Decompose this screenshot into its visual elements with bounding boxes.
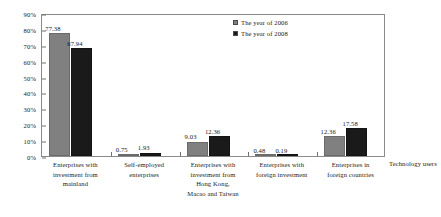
category-label-line: foreign countries <box>309 170 393 180</box>
legend-item-2006: The year of 2006 <box>233 19 288 26</box>
x-tick-mark <box>248 152 249 156</box>
y-tick-label: 50% <box>0 74 40 81</box>
x-axis-category-labels: Enterprises withinvestment frommainlandS… <box>41 160 385 215</box>
y-tick-mark <box>42 158 46 159</box>
bar <box>140 153 161 156</box>
bar <box>49 33 70 156</box>
bar-value-label: 0.19 <box>264 147 298 154</box>
legend-swatch-2008-icon <box>233 31 238 36</box>
bar-cluster: 77.3867.94 <box>42 15 111 156</box>
x-tick-mark <box>317 152 318 156</box>
y-tick-label: 40% <box>0 90 40 97</box>
y-tick-mark <box>42 78 46 79</box>
legend-item-2008: The year of 2008 <box>233 30 288 37</box>
legend-label-2006: The year of 2006 <box>241 19 288 26</box>
bar <box>346 128 367 156</box>
y-tick-mark <box>42 62 46 63</box>
y-tick-label: 90% <box>0 11 40 18</box>
grouped-bar-chart: 77.3867.940.751.939.0312.360.480.1912.36… <box>0 0 441 217</box>
bar-cluster: 12.3617.58 <box>317 15 386 156</box>
bar-cluster: 0.751.93 <box>111 15 180 156</box>
bar <box>187 142 208 156</box>
bar-value-label: 17.58 <box>333 120 367 127</box>
bar-value-label: 1.93 <box>127 144 161 151</box>
category-label-line: Enterprises in <box>309 160 393 170</box>
category-label-line: Macao and Taiwan <box>171 189 255 199</box>
y-tick-label: 30% <box>0 106 40 113</box>
y-tick-mark <box>42 142 46 143</box>
x-axis-title: Technology users <box>389 160 437 167</box>
bar <box>118 154 139 156</box>
plot-area: 77.3867.940.751.939.0312.360.480.1912.36… <box>41 14 385 157</box>
bar-value-label: 67.94 <box>58 40 92 47</box>
y-tick-label: 80% <box>0 26 40 33</box>
category-label-line: mainland <box>33 179 117 189</box>
y-tick-mark <box>42 30 46 31</box>
bar <box>255 154 276 156</box>
y-tick-mark <box>42 94 46 95</box>
bar <box>71 48 92 156</box>
y-tick-mark <box>42 110 46 111</box>
category-label-line: Hong Kong, <box>171 179 255 189</box>
y-tick-mark <box>42 46 46 47</box>
legend-swatch-2006-icon <box>233 20 238 25</box>
category-label: Enterprises inforeign countries <box>309 160 393 179</box>
y-tick-mark <box>42 126 46 127</box>
y-tick-label: 70% <box>0 42 40 49</box>
bar <box>277 154 298 156</box>
x-tick-mark <box>180 152 181 156</box>
y-tick-mark <box>42 15 46 16</box>
bar <box>209 136 230 156</box>
bar <box>324 136 345 156</box>
x-tick-mark <box>111 152 112 156</box>
chart-legend: The year of 2006 The year of 2008 <box>233 19 288 37</box>
legend-label-2008: The year of 2008 <box>241 30 288 37</box>
y-tick-label: 20% <box>0 122 40 129</box>
y-tick-label: 60% <box>0 58 40 65</box>
bar-value-label: 12.36 <box>196 128 230 135</box>
bar-value-label: 12.36 <box>311 128 345 135</box>
bars-layer: 77.3867.940.751.939.0312.360.480.1912.36… <box>42 15 384 156</box>
y-tick-label: 10% <box>0 138 40 145</box>
